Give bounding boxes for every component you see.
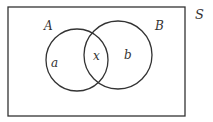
region-x-label: x — [93, 49, 100, 63]
venn-diagram: S A B a x b — [0, 0, 213, 122]
set-a-label: A — [43, 19, 53, 33]
region-b-label: b — [124, 48, 132, 62]
set-b-label: B — [154, 19, 164, 33]
universe-label: S — [195, 7, 204, 22]
region-a-label: a — [51, 56, 58, 70]
